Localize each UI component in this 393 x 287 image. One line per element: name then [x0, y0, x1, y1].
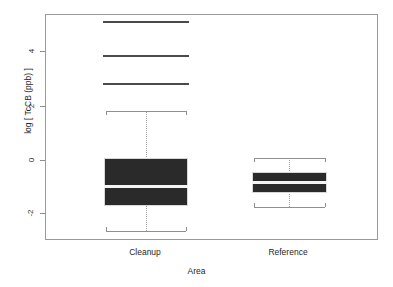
- reference-upper-cap-tick-right: [325, 158, 326, 162]
- x-axis-title: Area: [0, 266, 393, 276]
- reference-median-line: [252, 181, 327, 184]
- reference-upper-cap-tick-left: [254, 158, 255, 162]
- reference-lower-whisker-cap: [254, 207, 325, 208]
- plot-area: [45, 14, 378, 240]
- boxplot-figure: 4 2 0 -2 log [ TcCB (ppb) ]: [0, 0, 393, 287]
- reference-lower-cap-tick-right: [325, 203, 326, 207]
- x-category-label-cleanup: Cleanup: [85, 247, 205, 257]
- boxplot-reference: [46, 15, 377, 239]
- y-axis-title: log [ TcCB (ppb) ]: [23, 21, 33, 181]
- x-category-label-reference: Reference: [228, 247, 348, 257]
- y-tick-label-neg2-text: -2: [26, 209, 34, 216]
- y-tick-label-neg2: -2: [0, 209, 34, 217]
- reference-lower-cap-tick-left: [254, 203, 255, 207]
- reference-upper-whisker-cap: [254, 158, 325, 159]
